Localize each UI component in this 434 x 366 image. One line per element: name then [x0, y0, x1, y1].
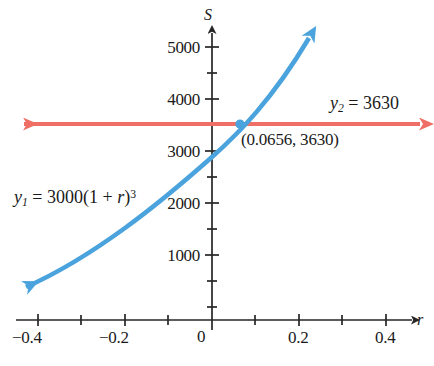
series-label-y2: y2 = 3630 — [330, 94, 399, 115]
series-label-y2-var: y — [330, 93, 338, 113]
y-tick-label-5000: 5000 — [148, 39, 200, 56]
x-tick-label-neg04: −0.4 — [12, 329, 42, 346]
y-tick-label-3000: 3000 — [148, 143, 200, 160]
x-axis-title: r — [417, 312, 423, 328]
y-tick-label-4000: 4000 — [148, 91, 200, 108]
intersection-point-label: (0.0656, 3630) — [241, 131, 339, 148]
series-label-y2-body: = 3630 — [344, 93, 399, 113]
y-axis-title: S — [204, 7, 212, 23]
intersection-marker — [235, 119, 244, 128]
x-tick-label-pos02: 0.2 — [288, 329, 308, 346]
y-tick-label-2000: 2000 — [148, 195, 200, 212]
series-label-y1: y1 = 3000(1 + r)3 — [14, 188, 136, 209]
x-tick-label-neg02: −0.2 — [99, 329, 129, 346]
series-label-y1-body: = 3000(1 + — [28, 187, 117, 207]
x-tick-label-pos04: 0.4 — [375, 329, 395, 346]
series-label-y1-var: y — [14, 187, 22, 207]
x-tick-label-zero: 0 — [197, 328, 205, 345]
plot-area — [0, 0, 434, 366]
chart-figure: S r 5000 4000 3000 2000 1000 −0.4 −0.2 0… — [0, 0, 434, 366]
series-label-y1-sup: 3 — [130, 188, 136, 201]
y-tick-label-1000: 1000 — [148, 247, 200, 264]
